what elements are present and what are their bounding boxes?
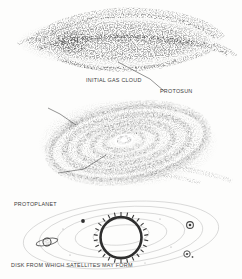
planet-right-upper (187, 222, 194, 229)
stage-sun-has-formed: SUN HAS FORMED. MOST OF DISK HAS EITHER … (0, 195, 242, 279)
figure-root: INITIAL GAS CLOUD PROTOSUN (0, 0, 242, 279)
planet-right-lower (184, 251, 194, 258)
orbit-2 (74, 215, 168, 255)
sun-glyph (94, 212, 148, 263)
stage-initial-gas-cloud: INITIAL GAS CLOUD PROTOSUN (0, 0, 242, 95)
label-initial-gas-cloud: INITIAL GAS CLOUD (86, 77, 142, 84)
protosun-core-condensation (56, 31, 88, 53)
accretion-disk-illustration (0, 95, 242, 195)
orbit-5 (20, 195, 221, 276)
sun-disc (101, 217, 142, 258)
sun-rays (94, 212, 148, 263)
solar-system-illustration (0, 195, 242, 279)
label-protosun: PROTOSUN (160, 88, 192, 95)
orbital-paths (20, 195, 221, 276)
planet-upper-left-small (81, 219, 85, 223)
stage-disk-has-formed: PROTOPLANET DISK FROM WHICH SATELLITES M… (0, 95, 242, 195)
planet-ringed-left (35, 236, 58, 248)
